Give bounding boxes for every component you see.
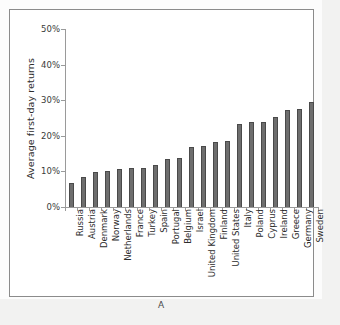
- bar: [129, 168, 134, 207]
- x-axis-category-label: Denmark: [99, 209, 109, 301]
- y-axis-title: Average first-day returns: [23, 29, 37, 207]
- bar: [69, 183, 74, 207]
- bar: [165, 159, 170, 207]
- x-axis-category-label: Poland: [255, 209, 265, 301]
- bar: [201, 146, 206, 207]
- bar: [249, 122, 254, 207]
- x-axis-category-label: France: [135, 209, 145, 301]
- bar: [93, 172, 98, 207]
- x-axis-category-label: Finland: [219, 209, 229, 301]
- plot-area: 0%10%20%30%40%50%: [65, 29, 318, 207]
- x-axis-category-label: United Kingdom: [207, 209, 217, 301]
- y-tick-label: 20%: [20, 131, 60, 141]
- figure-panel: Average first-day returns 0%10%20%30%40%…: [0, 0, 340, 325]
- bar: [225, 141, 230, 207]
- bar: [153, 165, 158, 207]
- bars-layer: [65, 29, 318, 207]
- x-axis-category-label: Netherlands: [123, 209, 133, 301]
- bar: [105, 171, 110, 207]
- y-tick-label: 30%: [20, 95, 60, 105]
- x-axis-category-label: Russia: [75, 209, 85, 301]
- x-axis-category-label: Belgium: [183, 209, 193, 301]
- x-axis-category-label: Greece: [291, 209, 301, 301]
- x-axis-category-label: Norway: [111, 209, 121, 301]
- x-axis-category-label: Austria: [87, 209, 97, 301]
- y-tick-label: 0%: [20, 202, 60, 212]
- x-axis-labels: RussiaAustriaDenmarkNorwayNetherlandsFra…: [65, 209, 318, 301]
- bar: [297, 109, 302, 207]
- bar: [237, 124, 242, 207]
- y-axis-title-text: Average first-day returns: [25, 57, 36, 178]
- x-axis-category-label: Sweden: [315, 209, 325, 301]
- bar: [177, 158, 182, 207]
- bar: [285, 110, 290, 207]
- x-axis-line: [65, 207, 318, 208]
- x-axis-category-label: Israel: [195, 209, 205, 301]
- bar: [309, 102, 314, 207]
- x-axis-category-label: United States: [231, 209, 241, 301]
- y-tick-label: 40%: [20, 60, 60, 70]
- figure-caption: A: [0, 300, 322, 310]
- bar: [81, 177, 86, 207]
- bar: [261, 122, 266, 207]
- bar: [213, 142, 218, 207]
- y-tick-label: 10%: [20, 166, 60, 176]
- x-axis-category-label: Germany: [303, 209, 313, 301]
- x-axis-category-label: Ireland: [279, 209, 289, 301]
- bar: [189, 147, 194, 207]
- bar: [273, 117, 278, 207]
- y-tick-label: 50%: [20, 24, 60, 34]
- x-axis-category-label: Cyprus: [267, 209, 277, 301]
- chart-frame: Average first-day returns 0%10%20%30%40%…: [9, 9, 314, 297]
- x-axis-category-label: Spain: [159, 209, 169, 301]
- x-axis-category-label: Turkey: [147, 209, 157, 301]
- x-axis-category-label: Portugal: [171, 209, 181, 301]
- bar: [117, 169, 122, 207]
- bar: [141, 168, 146, 207]
- x-axis-category-label: Italy: [243, 209, 253, 301]
